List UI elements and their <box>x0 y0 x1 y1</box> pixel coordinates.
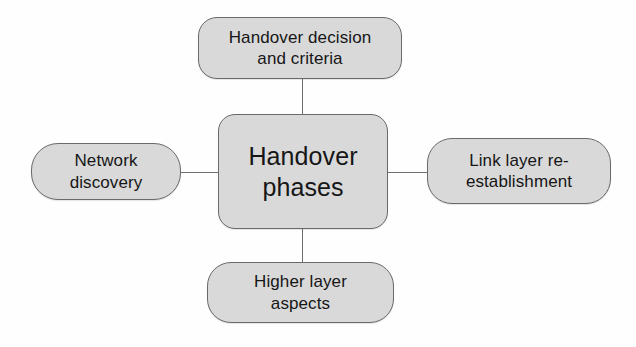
connector-center-to-right <box>388 172 428 173</box>
node-label-handover-decision-and-criteria: Handover decision and criteria <box>199 27 401 69</box>
connector-center-to-left <box>181 172 219 173</box>
connector-center-to-bottom <box>302 229 303 263</box>
node-label-higher-layer-aspects: Higher layer aspects <box>208 271 393 313</box>
node-handover-decision-and-criteria[interactable]: Handover decision and criteria <box>198 17 402 79</box>
connector-center-to-top <box>302 79 303 115</box>
node-label-link-layer-re-establishment: Link layer re- establishment <box>428 150 610 192</box>
node-label-network-discovery: Network discovery <box>32 150 180 192</box>
node-label-handover-phases: Handover phases <box>219 141 387 203</box>
diagram-canvas: Handover decision and criteria Network d… <box>0 0 636 347</box>
node-higher-layer-aspects[interactable]: Higher layer aspects <box>207 262 394 323</box>
node-network-discovery[interactable]: Network discovery <box>31 143 181 200</box>
node-link-layer-re-establishment[interactable]: Link layer re- establishment <box>427 138 611 204</box>
node-handover-phases[interactable]: Handover phases <box>218 114 388 229</box>
